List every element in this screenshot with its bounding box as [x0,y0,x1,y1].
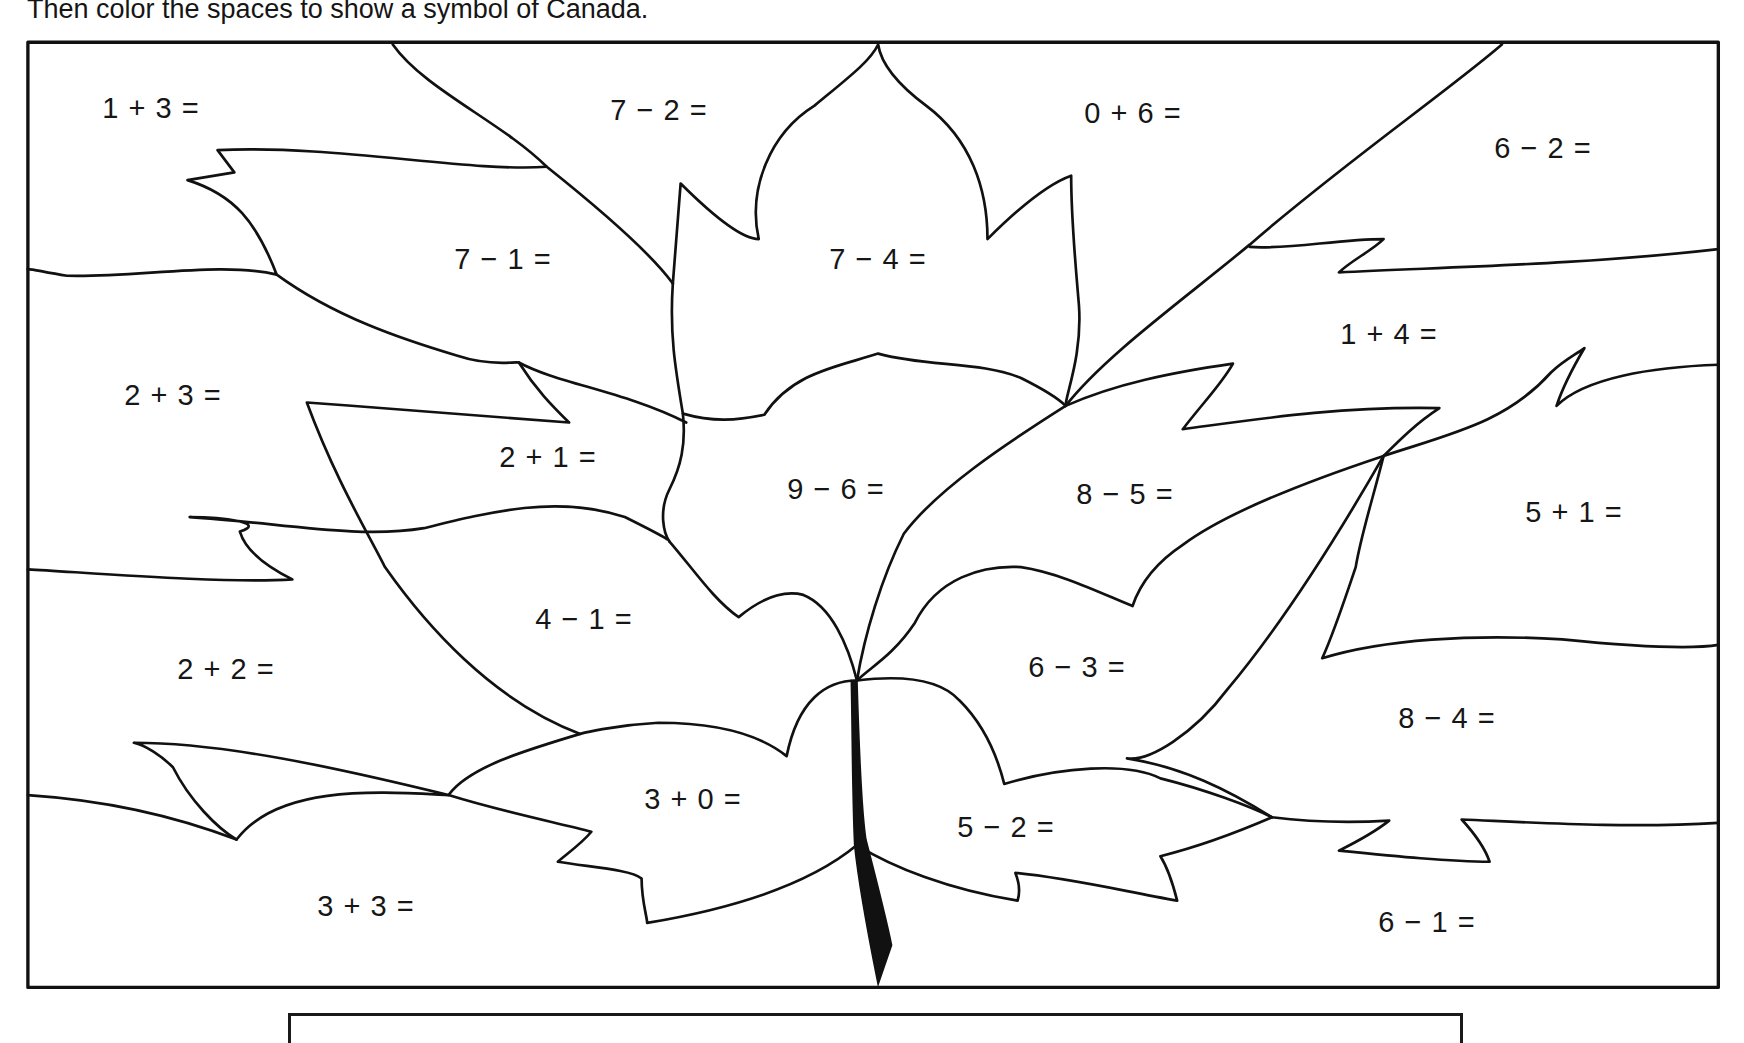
region-divider [307,362,580,733]
equation-label: 6 − 1 = [1378,906,1475,939]
leaf-outline [857,817,1272,900]
leaf-outline [857,678,1272,817]
equation-label: 2 + 1 = [499,441,596,474]
equation-label: 6 − 3 = [1028,651,1125,684]
equation-label: 9 − 6 = [787,473,884,506]
equation-label: 4 − 1 = [535,603,632,636]
region-divider [28,795,237,839]
region-divider [277,275,686,423]
region-divider [1250,239,1719,272]
answer-box [288,1013,1463,1043]
equation-label: 1 + 4 = [1340,318,1437,351]
equation-label: 2 + 3 = [124,379,221,412]
leaf-outline [1127,456,1718,862]
leaf-outline [673,44,1080,405]
equation-label: 5 + 1 = [1525,496,1622,529]
region-divider [1384,348,1719,456]
equation-label: 1 + 3 = [102,92,199,125]
equation-label: 6 − 2 = [1494,132,1591,165]
picture-frame [28,42,1718,987]
region-divider [28,506,667,580]
equation-label: 7 − 1 = [454,243,551,276]
equation-label: 2 + 2 = [177,653,274,686]
leaf-outline [857,406,1066,681]
equation-label: 0 + 6 = [1084,97,1181,130]
equation-label: 3 + 3 = [317,890,414,923]
equation-label: 8 − 5 = [1076,478,1173,511]
leaf-outline [683,354,1066,420]
equation-label: 7 − 4 = [829,243,926,276]
region-divider [134,743,449,840]
equation-label: 5 − 2 = [957,811,1054,844]
leaf-outline [669,542,856,681]
equation-label: 7 − 2 = [610,94,707,127]
equation-label: 8 − 4 = [1398,702,1495,735]
equation-label: 3 + 0 = [644,783,741,816]
